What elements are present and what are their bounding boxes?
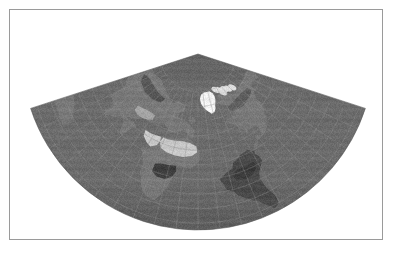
map-figure-frame [9,9,383,240]
map-viewport[interactable] [10,10,382,239]
world-map-canvas[interactable] [10,10,382,239]
screenshot-root [0,0,394,253]
